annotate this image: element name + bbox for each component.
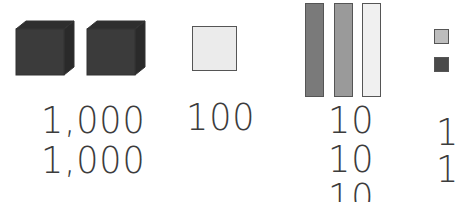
label-ten-3: 10 — [328, 178, 374, 202]
thousand-cube-icon-2 — [85, 19, 147, 77]
label-one-2: 1 — [436, 150, 457, 188]
label-hundred: 100 — [186, 98, 255, 136]
hundred-flat-square-icon — [192, 26, 237, 71]
thousand-cube-icon-1 — [14, 19, 76, 77]
ten-rod-icon-light — [362, 3, 381, 97]
ten-rod-icon-medium — [334, 3, 353, 97]
label-thousand-1: 1,000 — [41, 101, 146, 139]
label-one-1: 1 — [436, 113, 457, 151]
label-ten-3-clipped: 10 — [320, 178, 380, 202]
one-unit-square-icon-light — [434, 29, 449, 44]
ten-rod-icon-dark — [305, 3, 324, 97]
label-ten-1: 10 — [328, 101, 374, 139]
label-ten-2: 10 — [328, 140, 374, 178]
one-unit-square-icon-dark — [434, 57, 449, 72]
label-thousand-2: 1,000 — [41, 141, 146, 179]
